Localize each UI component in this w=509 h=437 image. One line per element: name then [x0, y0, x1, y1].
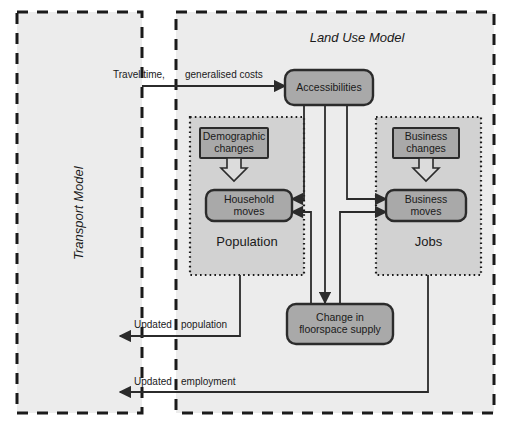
transport-model-title-text: Transport Model — [71, 166, 86, 260]
flow-updated-employment-text1: Updated — [134, 376, 172, 387]
flow-updated-employment-label-part1: Updated — [134, 376, 172, 387]
transport-model-title: Transport Model — [72, 166, 87, 260]
household-moves-label: Household moves — [206, 190, 292, 221]
flow-updated-population-text2: population — [181, 319, 227, 330]
accessibilities-label-text: Accessibilities — [296, 82, 361, 94]
land-use-model-title-text: Land Use Model — [310, 30, 405, 45]
flow-updated-employment-label-part2: employment — [181, 376, 235, 387]
jobs-zone-label-text: Jobs — [415, 235, 442, 250]
flow-travel-time-text1: Travel time, — [113, 69, 165, 80]
household-moves-label-line2: moves — [234, 206, 265, 218]
change-in-floorspace-supply-label-line2: floorspace supply — [299, 324, 381, 336]
flow-travel-time-label-part1: Travel time, — [113, 69, 165, 80]
flow-updated-employment-text2: employment — [181, 376, 235, 387]
flow-travel-time-label-part2: generalised costs — [185, 69, 263, 80]
business-changes-label-line2: changes — [406, 143, 446, 155]
change-in-floorspace-supply-label: Change in floorspace supply — [287, 304, 393, 344]
flow-travel-time-text2: generalised costs — [185, 69, 263, 80]
demographic-changes-label: Demographic changes — [200, 128, 268, 158]
flow-updated-population-label-part1: Updated — [134, 319, 172, 330]
diagram-canvas: Transport Model Land Use Model Travel ti… — [0, 0, 509, 437]
business-moves-label-line2: moves — [411, 206, 442, 218]
flow-updated-population-text1: Updated — [134, 319, 172, 330]
demographic-changes-label-line2: changes — [214, 143, 254, 155]
population-zone-label: Population — [190, 232, 304, 252]
land-use-model-title: Land Use Model — [292, 31, 422, 46]
household-moves-label-line1: Household — [224, 194, 274, 206]
business-moves-label-line1: Business — [405, 194, 448, 206]
flow-updated-population-label-part2: population — [181, 319, 227, 330]
accessibilities-label: Accessibilities — [285, 70, 373, 105]
business-moves-label: Business moves — [386, 190, 466, 221]
business-changes-label: Business changes — [393, 128, 459, 158]
jobs-zone-label: Jobs — [376, 232, 481, 252]
population-zone-label-text: Population — [216, 235, 277, 250]
